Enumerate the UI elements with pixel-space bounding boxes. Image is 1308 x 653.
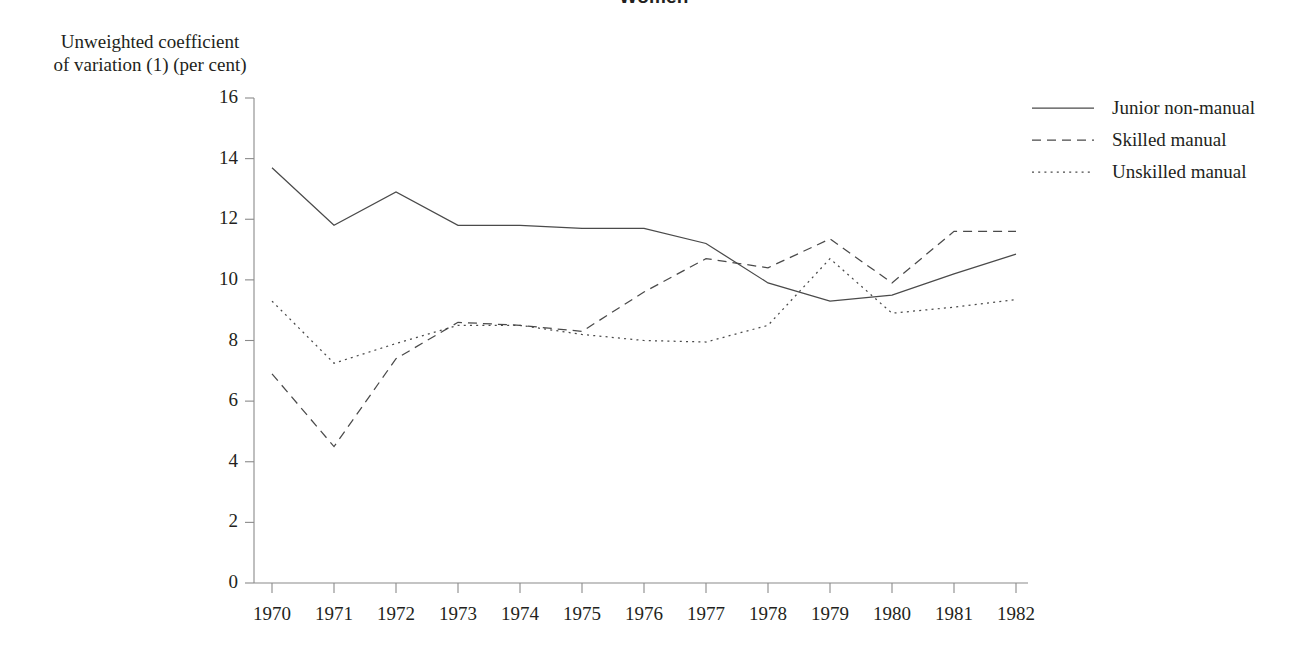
y-tick-label: 2 [192,510,238,532]
chart-container: Women Unweighted coefficient of variatio… [0,0,1308,653]
chart-legend: Junior non-manualSkilled manualUnskilled… [1032,92,1308,188]
y-tick-label: 16 [192,86,238,108]
legend-swatch-dotted [1032,165,1094,179]
axes-group [245,98,1028,593]
x-tick-label: 1981 [923,603,985,625]
x-tick-label: 1973 [427,603,489,625]
series-dashed [272,231,1016,446]
x-tick-label: 1982 [985,603,1047,625]
x-tick-label: 1974 [489,603,551,625]
y-tick-label: 14 [192,147,238,169]
x-tick-label: 1980 [861,603,923,625]
y-tick-label: 10 [192,268,238,290]
y-tick-label: 0 [192,571,238,593]
series-group [272,168,1016,447]
x-tick-label: 1978 [737,603,799,625]
legend-item[interactable]: Unskilled manual [1032,156,1308,188]
legend-item[interactable]: Skilled manual [1032,124,1308,156]
legend-swatch-solid [1032,101,1094,115]
legend-swatch-dashed [1032,133,1094,147]
y-tick-label: 12 [192,207,238,229]
x-tick-label: 1970 [241,603,303,625]
y-tick-label: 8 [192,329,238,351]
legend-item[interactable]: Junior non-manual [1032,92,1308,124]
x-tick-label: 1979 [799,603,861,625]
series-dotted [272,259,1016,364]
series-solid [272,168,1016,301]
legend-label: Junior non-manual [1112,97,1255,119]
legend-label: Unskilled manual [1112,161,1247,183]
x-tick-label: 1975 [551,603,613,625]
y-tick-label: 4 [192,450,238,472]
x-tick-label: 1971 [303,603,365,625]
x-tick-label: 1976 [613,603,675,625]
y-tick-label: 6 [192,389,238,411]
legend-label: Skilled manual [1112,129,1227,151]
x-tick-label: 1977 [675,603,737,625]
x-tick-label: 1972 [365,603,427,625]
